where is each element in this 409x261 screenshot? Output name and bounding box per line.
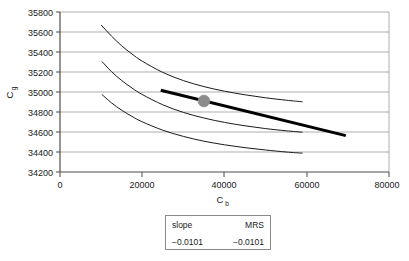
table-header-mrs: MRS xyxy=(218,216,270,233)
xtick-label-40000: 40000 xyxy=(211,180,236,190)
ytick-label-34800: 34800 xyxy=(28,108,53,118)
slope-mrs-table-grid: slope MRS −0.0101 −0.0101 xyxy=(166,216,270,250)
y-axis-title-subscript: g xyxy=(10,86,18,90)
ytick-label-35200: 35200 xyxy=(28,68,53,78)
x-axis-ticks xyxy=(60,172,389,177)
ytick-label-35400: 35400 xyxy=(28,48,53,58)
slope-mrs-table: slope MRS −0.0101 −0.0101 xyxy=(165,215,271,250)
x-axis-title-subscript: b xyxy=(225,200,229,207)
table-row-headers: slope MRS xyxy=(166,216,270,233)
marker-tangency-point xyxy=(198,95,210,107)
ytick-label-35000: 35000 xyxy=(28,88,53,98)
x-axis-title: C b xyxy=(217,194,230,207)
ytick-label-34600: 34600 xyxy=(28,128,53,138)
xtick-label-80000: 80000 xyxy=(374,180,399,190)
xtick-label-20000: 20000 xyxy=(129,180,154,190)
ytick-label-34400: 34400 xyxy=(28,148,53,158)
x-axis-title-base: C xyxy=(217,194,224,205)
ytick-label-35600: 35600 xyxy=(28,28,53,38)
table-value-mrs: −0.0101 xyxy=(218,233,270,250)
xtick-label-0: 0 xyxy=(57,180,62,190)
y-axis-title: C g xyxy=(4,86,18,98)
chart-container: 35800 35600 35400 35200 35000 34800 3460… xyxy=(0,0,409,261)
x-axis-tick-labels: 0 20000 40000 60000 80000 xyxy=(57,180,399,190)
table-header-slope: slope xyxy=(166,216,218,233)
ytick-label-34200: 34200 xyxy=(28,168,53,178)
xtick-label-60000: 60000 xyxy=(294,180,319,190)
table-row-values: −0.0101 −0.0101 xyxy=(166,233,270,250)
y-axis-tick-labels: 35800 35600 35400 35200 35000 34800 3460… xyxy=(28,8,53,178)
table-value-slope: −0.0101 xyxy=(166,233,218,250)
ytick-label-35800: 35800 xyxy=(28,8,53,18)
y-axis-title-base: C xyxy=(4,91,15,98)
